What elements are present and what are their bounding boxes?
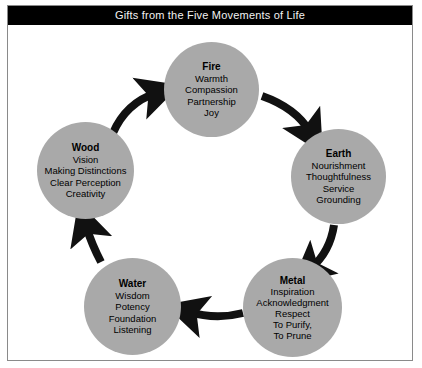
node-metal-item: Respect bbox=[275, 308, 310, 319]
node-earth-item: Thoughtfulness bbox=[306, 171, 371, 183]
node-metal-item: To Purify, bbox=[273, 319, 312, 330]
node-wood-item: Creativity bbox=[66, 188, 106, 200]
node-fire-item: Compassion bbox=[185, 84, 238, 96]
node-metal-item: Acknowledgment bbox=[256, 297, 328, 308]
node-earth-item: Nourishment bbox=[312, 160, 366, 172]
node-earth-item: Grounding bbox=[316, 194, 360, 206]
node-wood-item: Making Distinctions bbox=[45, 165, 127, 177]
node-wood-item: Clear Perception bbox=[50, 177, 121, 189]
node-water-item: Wisdom bbox=[115, 290, 149, 302]
arrow-metal-to-water bbox=[189, 312, 243, 316]
node-water-item: Foundation bbox=[109, 313, 157, 325]
node-water[interactable]: Water Wisdom Potency Foundation Listenin… bbox=[84, 258, 181, 355]
node-metal-item: Inspiration bbox=[271, 286, 315, 297]
node-metal-title: Metal bbox=[280, 275, 306, 286]
node-water-title: Water bbox=[119, 278, 146, 290]
diagram-figure: Gifts from the Five Movements of Life Fi… bbox=[0, 0, 422, 368]
node-fire-title: Fire bbox=[202, 61, 220, 73]
node-fire-item: Joy bbox=[204, 107, 219, 119]
node-water-item: Listening bbox=[113, 324, 151, 336]
arrow-earth-to-metal bbox=[311, 225, 334, 268]
node-wood-title: Wood bbox=[72, 142, 100, 154]
node-earth-title: Earth bbox=[326, 148, 352, 160]
node-earth[interactable]: Earth Nourishment Thoughtfulness Service… bbox=[291, 129, 386, 224]
node-metal[interactable]: Metal Inspiration Acknowledgment Respect… bbox=[243, 258, 342, 357]
node-wood-item: Vision bbox=[73, 154, 99, 166]
arrow-water-to-wood bbox=[86, 226, 101, 262]
node-fire-item: Partnership bbox=[187, 96, 236, 108]
node-wood[interactable]: Wood Vision Making Distinctions Clear Pe… bbox=[37, 122, 134, 219]
node-fire[interactable]: Fire Warmth Compassion Partnership Joy bbox=[164, 42, 259, 137]
node-fire-item: Warmth bbox=[195, 73, 228, 85]
node-water-item: Potency bbox=[115, 301, 149, 313]
arrow-wood-to-fire bbox=[113, 93, 156, 133]
arrow-fire-to-earth bbox=[262, 96, 310, 132]
node-earth-item: Service bbox=[323, 183, 355, 195]
node-metal-item: To Prune bbox=[273, 330, 311, 341]
